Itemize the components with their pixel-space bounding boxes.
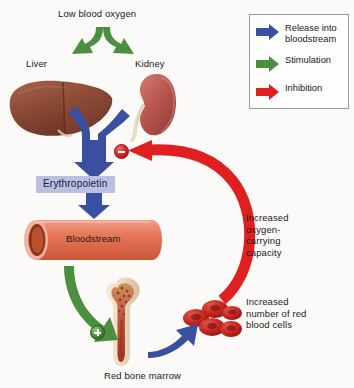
green-arrow-icon xyxy=(256,56,280,72)
stimulation-plus-badge xyxy=(90,325,105,340)
red-arrow-icon xyxy=(256,84,280,100)
legend-label-stimulation: Stimulation xyxy=(285,55,347,66)
label-red-bone-marrow: Red bone marrow xyxy=(104,370,181,382)
legend-box: Release into bloodstream Stimulation Inh… xyxy=(249,14,349,109)
green-stimulation-arrow-top xyxy=(72,26,134,64)
label-increased-rbc: Increased number of red blood cells xyxy=(246,296,314,331)
label-increased-oxygen-capacity: Increased oxygen-carrying capacity xyxy=(246,212,314,258)
label-kidney: Kidney xyxy=(135,58,165,70)
inhibition-minus-badge xyxy=(114,144,129,159)
label-liver: Liver xyxy=(26,58,47,70)
label-erythropoietin: Erythropoietin xyxy=(36,176,115,193)
red-blood-cells-illustration xyxy=(182,296,244,348)
erythropoietin-feedback-diagram: Low blood oxygen Liver Kidney Erythropoi… xyxy=(0,0,354,388)
label-low-blood-oxygen: Low blood oxygen xyxy=(58,8,136,20)
label-bloodstream: Bloodstream xyxy=(66,233,120,245)
legend-item-inhibition: Inhibition xyxy=(256,83,347,100)
legend-label-inhibition: Inhibition xyxy=(285,83,347,94)
blue-release-arrow-to-bloodstream xyxy=(78,192,110,219)
legend-label-release: Release into bloodstream xyxy=(285,23,347,45)
legend-item-stimulation: Stimulation xyxy=(256,55,347,72)
liver-illustration xyxy=(6,78,114,140)
legend-item-release: Release into bloodstream xyxy=(256,23,347,45)
kidney-illustration xyxy=(128,72,178,140)
blue-arrow-icon xyxy=(256,24,280,40)
bone-marrow-illustration xyxy=(100,276,146,368)
